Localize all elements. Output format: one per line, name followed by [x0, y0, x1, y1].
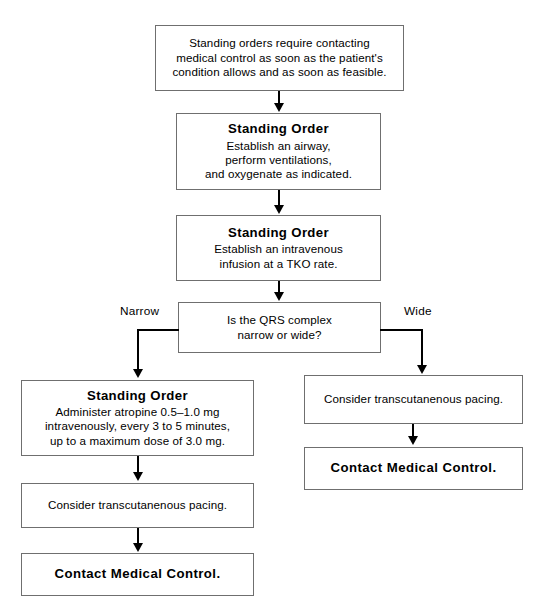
node-iv-line-1: Establish an intravenous	[214, 242, 343, 256]
connector-decision-right-horizontal	[380, 329, 423, 331]
node-airway-header: Standing Order	[228, 121, 329, 137]
node-contact-right: Contact Medical Control.	[304, 447, 523, 490]
node-atropine-line-1: Administer atropine 0.5–1.0 mg	[55, 405, 219, 419]
node-decision-qrs: Is the QRS complex narrow or wide?	[178, 302, 381, 353]
node-intro-line-2: medical control as soon as the patient's	[176, 51, 383, 65]
arrowhead-pacing-to-contact-right	[408, 436, 418, 445]
node-contact-left: Contact Medical Control.	[21, 553, 254, 596]
node-atropine: Standing Order Administer atropine 0.5–1…	[21, 380, 254, 456]
arrowhead-airway-to-iv	[274, 205, 284, 214]
node-airway-line-1: Establish an airway,	[226, 139, 330, 153]
arrowhead-atropine-to-pacing	[133, 472, 143, 481]
connector-atropine-to-pacing	[137, 456, 139, 473]
edge-label-narrow: Narrow	[120, 304, 159, 318]
node-atropine-header: Standing Order	[87, 388, 188, 404]
arrowhead-iv-to-decision	[274, 292, 284, 301]
node-iv-header: Standing Order	[228, 225, 329, 241]
node-pacing-right: Consider transcutanenous pacing.	[304, 375, 523, 424]
node-contact-left-line-1: Contact Medical Control.	[54, 566, 220, 582]
node-atropine-line-2: intravenously, every 3 to 5 minutes,	[45, 419, 230, 433]
node-iv-line-2: infusion at a TKO rate.	[219, 257, 337, 271]
node-atropine-line-3: up to a maximum dose of 3.0 mg.	[50, 434, 225, 448]
arrowhead-pacing-to-contact-left	[133, 543, 143, 552]
connector-decision-left-horizontal	[137, 329, 179, 331]
connector-decision-right-vertical	[421, 329, 423, 366]
node-pacing-left-line-1: Consider transcutanenous pacing.	[48, 498, 227, 512]
arrowhead-narrow-branch	[133, 369, 143, 378]
connector-pacing-to-contact-left	[137, 528, 139, 544]
node-iv: Standing Order Establish an intravenous …	[176, 215, 381, 281]
node-intro-line-3: condition allows and as soon as feasible…	[172, 65, 386, 79]
node-contact-right-line-1: Contact Medical Control.	[330, 460, 496, 476]
edge-label-wide: Wide	[404, 304, 432, 318]
node-intro-line-1: Standing orders require contacting	[189, 36, 370, 50]
node-pacing-right-line-1: Consider transcutanenous pacing.	[324, 392, 503, 406]
node-decision-qrs-line-2: narrow or wide?	[238, 328, 322, 342]
node-intro: Standing orders require contacting medic…	[155, 25, 404, 91]
node-airway-line-2: perform ventilations,	[225, 153, 332, 167]
connector-decision-left-vertical	[137, 329, 139, 370]
node-airway: Standing Order Establish an airway, perf…	[176, 113, 381, 190]
arrowhead-intro-to-airway	[274, 103, 284, 112]
arrowhead-wide-branch	[417, 365, 427, 374]
flowchart-canvas: Standing orders require contacting medic…	[0, 0, 543, 616]
node-decision-qrs-line-1: Is the QRS complex	[227, 313, 332, 327]
node-pacing-left: Consider transcutanenous pacing.	[21, 483, 254, 528]
node-airway-line-3: and oxygenate as indicated.	[205, 167, 352, 181]
connector-airway-to-iv	[278, 190, 280, 206]
